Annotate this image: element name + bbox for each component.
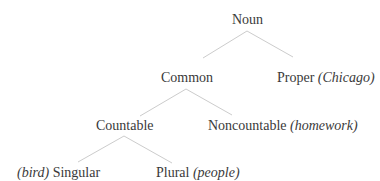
node-label: Countable	[96, 118, 154, 133]
node-proper: Proper (Chicago)	[277, 70, 375, 86]
tree-edges	[0, 0, 380, 181]
node-plural: Plural (people)	[156, 165, 240, 181]
node-label: Noun	[232, 12, 263, 27]
edge-common-countable	[140, 89, 186, 116]
edge-noun-proper	[247, 31, 293, 57]
node-noncountable: Noncountable (homework)	[208, 118, 358, 134]
edge-countable-plural	[124, 136, 172, 163]
edge-noun-common	[203, 31, 247, 58]
node-example: (homework)	[290, 118, 358, 133]
node-common: Common	[161, 70, 213, 86]
node-noun: Noun	[232, 12, 263, 28]
node-example: (Chicago)	[318, 70, 375, 85]
node-example: (bird)	[17, 165, 49, 180]
node-countable: Countable	[96, 118, 154, 134]
node-label: Singular	[53, 165, 100, 180]
node-label: Plural	[156, 165, 189, 180]
node-singular: (bird) Singular	[17, 165, 100, 181]
node-label: Common	[161, 70, 213, 85]
node-label: Proper	[277, 70, 314, 85]
noun-classification-tree: Noun Common Proper (Chicago) Countable N…	[0, 0, 380, 181]
node-label: Noncountable	[208, 118, 287, 133]
edge-common-noncountable	[186, 89, 232, 115]
edge-countable-singular	[78, 136, 124, 162]
node-example: (people)	[193, 165, 240, 180]
